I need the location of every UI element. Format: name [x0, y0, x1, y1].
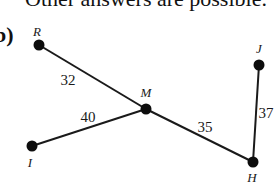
vertex-M [141, 104, 152, 115]
vertex-label-M: M [140, 85, 153, 100]
edge-MH [146, 109, 253, 162]
edges [32, 45, 259, 162]
vertex-label-R: R [32, 24, 41, 39]
edge-weight-RM: 32 [61, 72, 76, 88]
vertex-H [248, 157, 259, 168]
vertex-label-I: I [27, 155, 33, 170]
vertex-label-J: J [256, 41, 263, 56]
vertex-R [34, 40, 45, 51]
weighted-graph: 32403537 RMIHJ [0, 0, 277, 184]
vertex-label-H: H [246, 170, 257, 184]
edge-weight-IM: 40 [81, 109, 96, 125]
edge-weight-MH: 35 [198, 119, 213, 135]
vertex-J [254, 60, 265, 71]
edge-RM [39, 45, 146, 109]
vertex-I [27, 141, 38, 152]
edge-weight-HJ: 37 [259, 105, 275, 121]
